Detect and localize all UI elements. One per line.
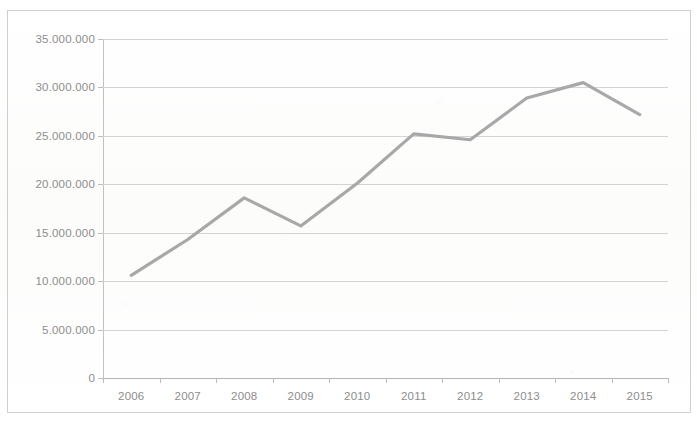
x-axis-tick — [442, 378, 443, 383]
x-axis-label-2008: 2008 — [231, 390, 257, 402]
x-axis-tick — [273, 378, 274, 383]
x-axis-tick — [499, 378, 500, 383]
x-axis-label-2011: 2011 — [401, 390, 427, 402]
y-axis-label-5000000: 5.000.000 — [42, 324, 95, 336]
x-axis-label-2009: 2009 — [288, 390, 314, 402]
y-axis-label-0: 0 — [88, 372, 95, 384]
series-polyline — [131, 83, 640, 276]
y-axis-label-15000000: 15.000.000 — [35, 227, 95, 239]
series-line-chart — [103, 39, 668, 378]
y-axis-label-10000000: 10.000.000 — [35, 275, 95, 287]
x-axis-label-2015: 2015 — [627, 390, 653, 402]
x-axis-tick — [612, 378, 613, 383]
x-axis-label-2012: 2012 — [457, 390, 483, 402]
x-axis-tick — [160, 378, 161, 383]
x-axis-label-2013: 2013 — [514, 390, 540, 402]
x-axis-tick — [329, 378, 330, 383]
x-axis-tick — [386, 378, 387, 383]
x-axis-tick — [216, 378, 217, 383]
x-axis-tick — [555, 378, 556, 383]
x-axis-tick — [668, 378, 669, 383]
chart-screenshot: 05.000.00010.000.00015.000.00020.000.000… — [0, 0, 697, 423]
y-axis-label-25000000: 25.000.000 — [35, 130, 95, 142]
x-axis-label-2007: 2007 — [175, 390, 201, 402]
plot-area: 05.000.00010.000.00015.000.00020.000.000… — [103, 39, 668, 378]
x-axis-label-2010: 2010 — [344, 390, 370, 402]
x-axis-tick — [103, 378, 104, 383]
y-axis-label-35000000: 35.000.000 — [35, 33, 95, 45]
y-axis-label-30000000: 30.000.000 — [35, 81, 95, 93]
x-axis-label-2006: 2006 — [118, 390, 144, 402]
y-axis-label-20000000: 20.000.000 — [35, 178, 95, 190]
x-axis-label-2014: 2014 — [570, 390, 596, 402]
